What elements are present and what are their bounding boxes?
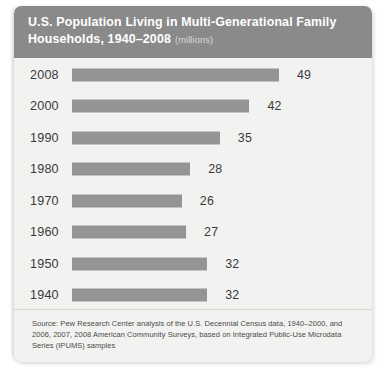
bar-value-label: 28 — [208, 162, 222, 176]
bar-row: 199035 — [14, 122, 372, 154]
bar-fill — [72, 131, 220, 144]
title-line-1: U.S. Population Living in Multi-Generati… — [28, 14, 360, 31]
bar-track — [72, 68, 317, 81]
source-note: Source: Pew Research Center analysis of … — [14, 310, 372, 362]
bar-row: 196027 — [14, 217, 372, 249]
bar-fill — [72, 163, 190, 176]
bar-row: 200042 — [14, 91, 372, 123]
bar-row: 197026 — [14, 185, 372, 217]
bar-category-label: 2008 — [30, 68, 72, 82]
bar-category-label: 2000 — [30, 99, 72, 113]
bar-track — [72, 163, 317, 176]
bar-value-label: 32 — [225, 288, 239, 302]
bar-value-label: 49 — [297, 68, 311, 82]
bar-value-label: 42 — [267, 99, 281, 113]
bar-value-label: 35 — [238, 131, 252, 145]
bar-track — [72, 226, 317, 239]
bar-track — [72, 194, 317, 207]
bar-category-label: 1980 — [30, 162, 72, 176]
page-title: U.S. Population Living in Multi-Generati… — [28, 14, 360, 48]
bar-row: 195032 — [14, 248, 372, 280]
chart-card: U.S. Population Living in Multi-Generati… — [14, 6, 372, 362]
bar-fill — [72, 194, 182, 207]
bar-track — [72, 289, 317, 302]
bar-row: 198028 — [14, 154, 372, 186]
bar-row: 194032 — [14, 280, 372, 312]
bar-category-label: 1950 — [30, 257, 72, 271]
chart-units-label: (millions) — [175, 35, 213, 45]
bar-row: 200849 — [14, 59, 372, 91]
bar-category-label: 1990 — [30, 131, 72, 145]
chart-header: U.S. Population Living in Multi-Generati… — [14, 6, 372, 58]
bar-track — [72, 131, 317, 144]
bar-fill — [72, 68, 279, 81]
bar-value-label: 27 — [204, 225, 218, 239]
bar-value-label: 26 — [200, 194, 214, 208]
bar-value-label: 32 — [225, 257, 239, 271]
bar-fill — [72, 289, 207, 302]
bar-chart-plot: 2008492000421990351980281970261960271950… — [14, 58, 372, 310]
bar-category-label: 1960 — [30, 225, 72, 239]
bar-category-label: 1940 — [30, 288, 72, 302]
bar-fill — [72, 257, 207, 270]
bar-fill — [72, 226, 186, 239]
bar-track — [72, 257, 317, 270]
bar-fill — [72, 100, 249, 113]
title-line-2: Households, 1940–2008 — [28, 32, 171, 46]
title-line-2-wrapper: Households, 1940–2008(millions) — [28, 31, 360, 49]
bar-category-label: 1970 — [30, 194, 72, 208]
